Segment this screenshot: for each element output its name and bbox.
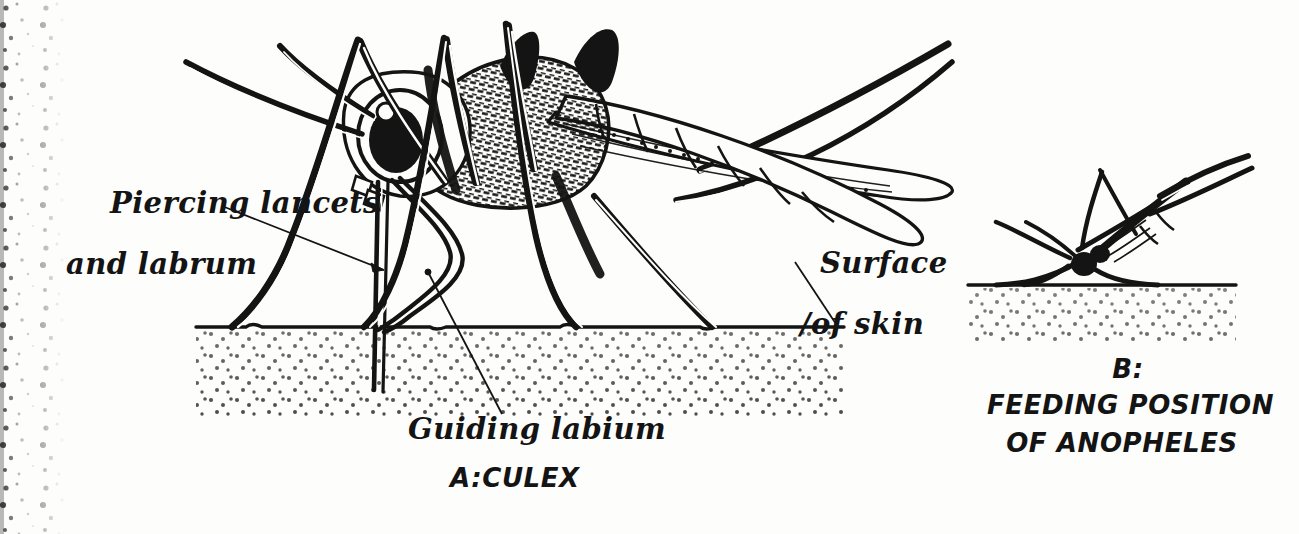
label-piercing-lancets: Piercing lancets and labrum: [68, 158, 380, 341]
label-surface-line2: /of skin: [800, 309, 947, 339]
scan-edge-speckle: [0, 0, 70, 534]
label-piercing-line1: Piercing lancets: [110, 186, 380, 220]
label-guiding-labium: Guiding labium: [408, 414, 666, 444]
caption-panel-a: A:CULEX: [450, 465, 580, 492]
caption-panel-b-letter: B:: [1083, 356, 1173, 383]
panel-b-anopheles: [968, 156, 1252, 344]
caption-panel-b-line2: OF ANOPHELES: [987, 430, 1257, 457]
label-surface-line1: Surface: [820, 246, 947, 280]
figure-page: Piercing lancets and labrum Surface /of …: [0, 0, 1299, 534]
label-surface-of-skin: Surface /of skin: [778, 218, 947, 401]
caption-panel-b-line1: FEEDING POSITION: [987, 392, 1257, 419]
label-piercing-line2: and labrum: [66, 249, 380, 279]
